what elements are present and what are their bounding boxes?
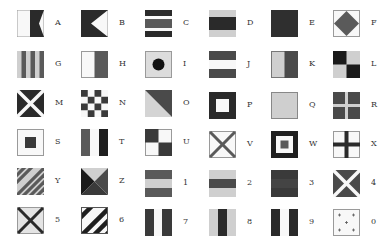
flag-k-icon [271, 51, 298, 78]
flag-2-icon [209, 170, 236, 197]
flag-h-icon [81, 51, 108, 78]
flag-cell-o: O [145, 90, 205, 120]
flag-f-icon [333, 10, 360, 37]
flag-label: U [183, 137, 190, 146]
flag-b-icon [81, 10, 108, 37]
flag-label: P [247, 100, 252, 109]
flag-5-icon [17, 207, 44, 234]
flag-7-icon [145, 209, 172, 236]
flag-label: R [371, 100, 377, 109]
flag-label: 4 [371, 178, 376, 187]
flag-z-icon [81, 168, 108, 195]
flag-6-icon [81, 207, 108, 234]
flag-label: E [309, 18, 315, 27]
flag-cell-1: 1 [145, 170, 205, 200]
flag-3-icon [271, 170, 298, 197]
flag-n-icon [81, 90, 108, 117]
flag-r-icon [333, 92, 360, 119]
flag-label: 3 [309, 178, 314, 187]
flag-label: A [55, 18, 61, 27]
flag-label: K [309, 59, 315, 68]
flag-cell-l: L [333, 51, 391, 81]
flag-label: 0 [371, 217, 376, 226]
flag-label: 1 [183, 178, 188, 187]
flag-label: 9 [309, 217, 314, 226]
flag-cell-t: T [81, 129, 141, 159]
flag-label: L [371, 59, 376, 68]
flag-label: W [309, 139, 317, 148]
flag-label: 6 [119, 215, 124, 224]
flag-label: J [247, 59, 250, 68]
flag-v-icon [209, 131, 236, 158]
flag-cell-j: J [209, 51, 269, 81]
flag-e-icon [271, 10, 298, 37]
flag-cell-7: 7 [145, 209, 205, 239]
flag-l-icon [333, 51, 360, 78]
flag-j-icon [209, 51, 236, 78]
flag-label: Q [309, 100, 316, 109]
flag-4-icon [333, 170, 360, 197]
flag-cell-n: N [81, 90, 141, 120]
flag-cell-i: I [145, 51, 205, 81]
flag-label: 2 [247, 178, 252, 187]
flag-8-icon [209, 209, 236, 236]
flag-i-icon [145, 51, 172, 78]
flag-cell-5: 5 [17, 207, 77, 237]
flag-label: Y [55, 176, 60, 185]
flag-label: F [371, 18, 377, 27]
flag-cell-8: 8 [209, 209, 269, 239]
flag-label: V [247, 139, 253, 148]
flag-m-icon [17, 90, 44, 117]
flag-cell-k: K [271, 51, 331, 81]
flag-label: N [119, 98, 126, 107]
flag-label: B [119, 18, 125, 27]
flag-label: T [119, 137, 124, 146]
flag-cell-h: H [81, 51, 141, 81]
flag-u-icon [145, 129, 172, 156]
flag-cell-c: C [145, 10, 205, 40]
flag-cell-d: D [209, 10, 269, 40]
flag-cell-2: 2 [209, 170, 269, 200]
flag-cell-r: R [333, 92, 391, 122]
flag-s-icon [17, 129, 44, 156]
flag-p-icon [209, 92, 236, 119]
flag-cell-f: F [333, 10, 391, 40]
flag-w-icon [271, 131, 298, 158]
flag-y-icon [17, 168, 44, 195]
flag-cell-6: 6 [81, 207, 141, 237]
flag-cell-s: S [17, 129, 77, 159]
flag-label: G [55, 59, 61, 68]
flag-cell-x: X [333, 131, 391, 161]
flag-o-icon [145, 90, 172, 117]
flag-cell-u: U [145, 129, 205, 159]
flag-cell-y: Y [17, 168, 77, 198]
flag-cell-a: A [17, 10, 77, 40]
flag-cell-4: 4 [333, 170, 391, 200]
flag-label: Z [119, 176, 125, 185]
flag-g-icon [17, 51, 44, 78]
flag-cell-q: Q [271, 92, 331, 122]
flag-cell-g: G [17, 51, 77, 81]
flag-label: O [183, 98, 190, 107]
flag-label: X [371, 139, 377, 148]
flag-label: C [183, 18, 189, 27]
flag-cell-e: E [271, 10, 331, 40]
flag-cell-z: Z [81, 168, 141, 198]
flag-label: 5 [55, 215, 60, 224]
flag-label: 8 [247, 217, 252, 226]
flag-cell-b: B [81, 10, 141, 40]
flag-9-icon [271, 209, 298, 236]
flag-q-icon [271, 92, 298, 119]
flag-c-icon [145, 10, 172, 37]
flag-t-icon [81, 129, 108, 156]
flag-cell-v: V [209, 131, 269, 161]
flag-0-icon [333, 209, 360, 236]
flag-label: M [55, 98, 63, 107]
flag-label: 7 [183, 217, 188, 226]
flag-d-icon [209, 10, 236, 37]
flag-cell-3: 3 [271, 170, 331, 200]
flag-cell-m: M [17, 90, 77, 120]
flag-cell-w: W [271, 131, 331, 161]
flag-label: S [55, 137, 60, 146]
flag-1-icon [145, 170, 172, 197]
